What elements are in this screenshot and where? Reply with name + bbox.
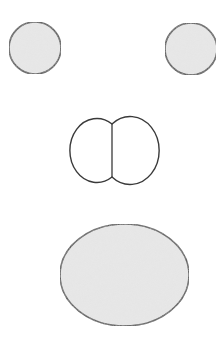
- right-circle: [165, 23, 216, 75]
- double-lobe-outline: [70, 117, 159, 185]
- double-lobe-shape: [70, 117, 159, 185]
- bottom-ellipse: [60, 224, 189, 326]
- left-circle: [9, 22, 61, 74]
- shapes-diagram: [0, 0, 216, 341]
